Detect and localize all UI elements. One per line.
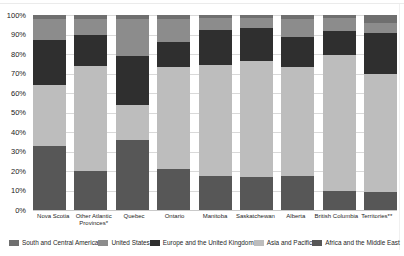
legend-swatch-united-states: [98, 240, 108, 247]
legend-label-europe-and-the-united-kingdom: Europe and the United Kingdom: [163, 239, 254, 247]
bars-container: [33, 15, 397, 210]
segment-asia-and-pacific: [281, 67, 314, 176]
segment-europe-and-the-united-kingdom: [157, 42, 190, 66]
y-axis-tick-labels: 100%90%80%70%60%50%40%30%20%10%0%: [0, 0, 29, 256]
bar-nova-scotia: [33, 15, 66, 210]
segment-united-states: [281, 19, 314, 38]
y-tick-0%: 0%: [0, 206, 26, 215]
legend-item-asia-and-pacific: Asia and Pacific: [254, 239, 312, 247]
legend-item-united-states: United States: [98, 239, 149, 247]
legend-label-south-and-central-america: South and Central America: [22, 239, 98, 247]
segment-south-and-central-america: [364, 15, 397, 23]
segment-asia-and-pacific: [240, 61, 273, 177]
segment-africa-and-the-middle-east: [240, 177, 273, 210]
segment-europe-and-the-united-kingdom: [74, 35, 107, 66]
segment-africa-and-the-middle-east: [323, 191, 356, 210]
segment-europe-and-the-united-kingdom: [116, 56, 149, 105]
bar-territories: [364, 15, 397, 210]
segment-africa-and-the-middle-east: [157, 169, 190, 210]
legend-swatch-europe-and-the-united-kingdom: [150, 240, 160, 247]
y-tick-90%: 90%: [0, 30, 26, 39]
y-tick-50%: 50%: [0, 108, 26, 117]
segment-united-states: [33, 19, 66, 40]
legend-label-africa-and-the-middle-east: Africa and the Middle East: [325, 239, 400, 247]
x-label-british-columbia: British Columbia: [313, 213, 359, 220]
segment-europe-and-the-united-kingdom: [240, 28, 273, 61]
segment-asia-and-pacific: [116, 105, 149, 140]
segment-africa-and-the-middle-east: [116, 140, 149, 210]
segment-africa-and-the-middle-east: [33, 146, 66, 210]
top-border-rule: [0, 3, 404, 4]
segment-asia-and-pacific: [157, 67, 190, 169]
segment-united-states: [240, 18, 273, 28]
segment-united-states: [74, 19, 107, 35]
legend-item-europe-and-the-united-kingdom: Europe and the United Kingdom: [150, 239, 254, 247]
gridline-0%: [33, 210, 397, 211]
x-label-alberta: Alberta: [273, 213, 319, 220]
x-label-ontario: Ontario: [152, 213, 198, 220]
segment-united-states: [323, 18, 356, 31]
y-tick-100%: 100%: [0, 11, 26, 20]
y-tick-30%: 30%: [0, 147, 26, 156]
legend-swatch-south-and-central-america: [9, 240, 19, 247]
y-tick-20%: 20%: [0, 167, 26, 176]
bar-british-columbia: [323, 15, 356, 210]
legend-item-africa-and-the-middle-east: Africa and the Middle East: [312, 239, 400, 247]
segment-africa-and-the-middle-east: [281, 176, 314, 210]
x-label-quebec: Quebec: [111, 213, 157, 220]
x-label-saskatchewan: Saskatchewan: [232, 213, 278, 220]
segment-asia-and-pacific: [33, 85, 66, 145]
bar-manitoba: [199, 15, 232, 210]
bar-ontario: [157, 15, 190, 210]
x-label-manitoba: Manitoba: [192, 213, 238, 220]
segment-europe-and-the-united-kingdom: [199, 30, 232, 65]
segment-europe-and-the-united-kingdom: [33, 40, 66, 85]
segment-africa-and-the-middle-east: [364, 192, 397, 210]
y-tick-70%: 70%: [0, 69, 26, 78]
segment-africa-and-the-middle-east: [199, 176, 232, 210]
segment-europe-and-the-united-kingdom: [364, 33, 397, 74]
bar-alberta: [281, 15, 314, 210]
legend-label-asia-and-pacific: Asia and Pacific: [267, 239, 312, 247]
segment-united-states: [116, 19, 149, 56]
segment-asia-and-pacific: [74, 66, 107, 171]
segment-europe-and-the-united-kingdom: [323, 31, 356, 55]
x-label-other-atlantic-provinces: Other Atlantic Provinces*: [71, 213, 117, 226]
segment-asia-and-pacific: [364, 74, 397, 193]
legend-swatch-asia-and-pacific: [254, 240, 264, 247]
y-tick-80%: 80%: [0, 50, 26, 59]
x-label-nova-scotia: Nova Scotia: [30, 213, 76, 220]
legend-swatch-africa-and-the-middle-east: [312, 240, 322, 247]
bar-quebec: [116, 15, 149, 210]
segment-asia-and-pacific: [323, 55, 356, 192]
legend-label-united-states: United States: [111, 239, 149, 247]
segment-united-states: [364, 23, 397, 33]
y-tick-40%: 40%: [0, 128, 26, 137]
y-tick-60%: 60%: [0, 89, 26, 98]
chart-legend: South and Central AmericaUnited StatesEu…: [0, 239, 404, 247]
segment-africa-and-the-middle-east: [74, 171, 107, 210]
bar-saskatchewan: [240, 15, 273, 210]
plot-area: [33, 15, 397, 210]
segment-europe-and-the-united-kingdom: [281, 37, 314, 66]
stacked-bar-chart: 100%90%80%70%60%50%40%30%20%10%0% Nova S…: [0, 0, 404, 256]
segment-asia-and-pacific: [199, 65, 232, 176]
segment-united-states: [199, 18, 232, 30]
y-tick-10%: 10%: [0, 186, 26, 195]
x-label-territories: Territories**: [354, 213, 400, 220]
legend-item-south-and-central-america: South and Central America: [9, 239, 98, 247]
x-axis-category-labels: Nova ScotiaOther Atlantic Provinces*Queb…: [33, 213, 397, 231]
bar-other-atlantic-provinces: [74, 15, 107, 210]
segment-united-states: [157, 19, 190, 42]
